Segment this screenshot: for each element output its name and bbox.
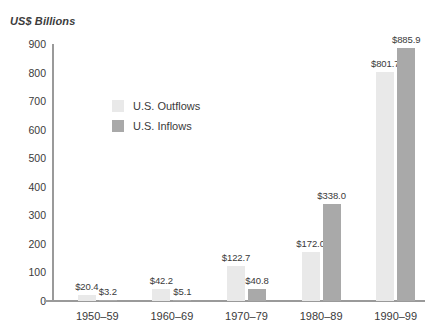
legend-label: U.S. Inflows — [133, 120, 192, 132]
bar-inflow[interactable] — [99, 300, 117, 302]
bar-outflow[interactable] — [302, 252, 320, 301]
bar-group: $801.7$885.9 — [376, 44, 415, 301]
chart-legend: U.S. OutflowsU.S. Inflows — [112, 97, 200, 137]
x-axis-tick-label: 1960–69 — [150, 310, 193, 322]
y-axis-tick-label: 300 — [2, 209, 46, 221]
y-axis-tick-label: 200 — [2, 238, 46, 250]
bar-value-label: $122.7 — [222, 252, 250, 263]
bar-group: $20.4$3.2 — [78, 44, 117, 301]
legend-swatch-icon — [112, 100, 124, 112]
y-axis-tick-label: 800 — [2, 67, 46, 79]
bar-value-label: $172.0 — [296, 238, 324, 249]
bar-value-label: $338.0 — [317, 190, 345, 201]
y-axis-tick-labels: 9008007006005004003002001000 — [0, 0, 46, 336]
y-axis-tick-label: 500 — [2, 152, 46, 164]
bar-inflow[interactable] — [323, 204, 341, 301]
legend-swatch-icon — [112, 120, 124, 132]
legend-item[interactable]: U.S. Outflows — [112, 97, 200, 115]
bar-group: $172.0$338.0 — [302, 44, 341, 301]
bar-outflow[interactable] — [152, 289, 170, 301]
y-axis-tick-label: 0 — [2, 295, 46, 307]
bar-inflow[interactable] — [173, 300, 191, 302]
bar-value-label: $40.8 — [245, 275, 268, 286]
bar-value-label: $885.9 — [392, 34, 420, 45]
bar-group: $122.7$40.8 — [227, 44, 266, 301]
bar-outflow[interactable] — [376, 72, 394, 301]
y-axis-tick-label: 100 — [2, 266, 46, 278]
legend-label: U.S. Outflows — [133, 100, 200, 112]
bar-value-label: $5.1 — [173, 286, 191, 297]
plot-area: $20.4$3.2$42.2$5.1$122.7$40.8$172.0$338.… — [52, 44, 425, 301]
bar-inflow[interactable] — [248, 289, 266, 301]
x-axis-tick-label: 1970–79 — [225, 310, 268, 322]
bar-value-label: $801.7 — [371, 58, 399, 69]
bar-value-label: $42.2 — [150, 275, 173, 286]
bar-value-label: $20.4 — [75, 281, 98, 292]
bar-chart: US$ Billions 900800700600500400300200100… — [0, 0, 447, 336]
y-axis-tick-label: 600 — [2, 124, 46, 136]
y-axis-tick-label: 700 — [2, 95, 46, 107]
legend-item[interactable]: U.S. Inflows — [112, 117, 200, 135]
x-axis-tick-label: 1980–89 — [300, 310, 343, 322]
bar-outflow[interactable] — [78, 295, 96, 301]
y-axis-tick-label: 400 — [2, 181, 46, 193]
bar-value-label: $3.2 — [99, 286, 117, 297]
bar-outflow[interactable] — [227, 266, 245, 301]
bar-group: $42.2$5.1 — [152, 44, 191, 301]
x-axis-tick-label: 1990–99 — [374, 310, 417, 322]
bar-inflow[interactable] — [397, 48, 415, 301]
x-axis-tick-label: 1950–59 — [76, 310, 119, 322]
y-axis-tick-label: 900 — [2, 38, 46, 50]
